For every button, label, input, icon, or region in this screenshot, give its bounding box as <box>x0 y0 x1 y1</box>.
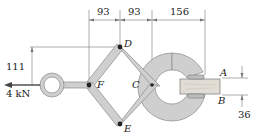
load-label: 4 kN <box>6 89 30 99</box>
dim-93-right: 93 <box>128 7 141 17</box>
pull-ring <box>40 73 64 97</box>
board <box>180 79 220 94</box>
point-B: B <box>218 96 225 106</box>
point-A: A <box>220 68 227 78</box>
dim-93-left: 93 <box>97 7 110 17</box>
point-D: D <box>124 39 132 49</box>
point-C: C <box>132 80 140 90</box>
point-E: E <box>124 124 131 134</box>
dim-36: 36 <box>238 110 251 120</box>
dim-156: 156 <box>170 7 189 17</box>
dim-111: 111 <box>6 62 25 72</box>
point-F: F <box>97 80 104 90</box>
